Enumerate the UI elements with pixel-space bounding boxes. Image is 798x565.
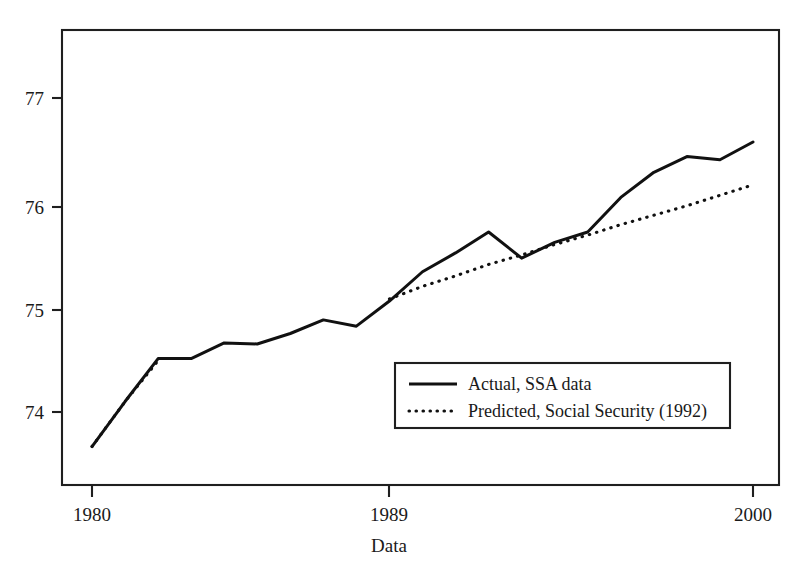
line-chart-canvas: 77 76 75 74 1980 1989 2000 Data (0, 0, 798, 565)
y-tick-label-74: 74 (25, 402, 45, 423)
legend-label-actual: Actual, SSA data (468, 374, 592, 394)
x-tick-label-1980: 1980 (73, 504, 111, 525)
chart-legend: Actual, SSA data Predicted, Social Secur… (395, 363, 730, 428)
x-tick-label-2000: 2000 (734, 504, 772, 525)
legend-label-predicted: Predicted, Social Security (1992) (468, 401, 707, 422)
chart-figure: 77 76 75 74 1980 1989 2000 Data (0, 0, 798, 565)
y-tick-label-75: 75 (25, 300, 44, 321)
x-tick-label-1989: 1989 (370, 504, 408, 525)
x-axis-title: Data (371, 535, 407, 556)
y-tick-label-77: 77 (25, 88, 44, 109)
figure-background (0, 0, 798, 565)
y-tick-label-76: 76 (25, 197, 44, 218)
